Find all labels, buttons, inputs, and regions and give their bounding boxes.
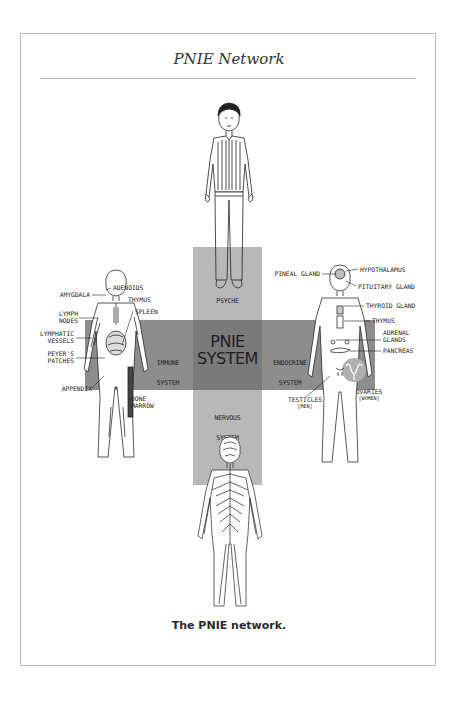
- figure-caption: The PNIE network.: [0, 619, 458, 632]
- annotation-leader-lines: [0, 0, 458, 701]
